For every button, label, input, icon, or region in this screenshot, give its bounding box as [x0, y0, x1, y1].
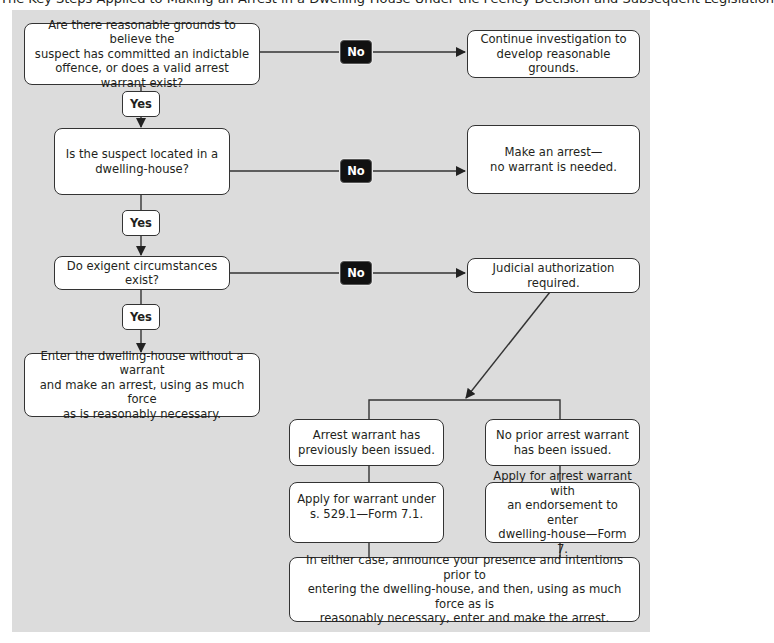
yes-label-1: Yes: [122, 91, 160, 117]
yes-label-3: Yes: [122, 304, 160, 330]
branch-warrant-previously-issued: Arrest warrant has previously been issue…: [289, 419, 444, 466]
apply-warrant-form-7-1: Apply for warrant under s. 529.1—Form 7.…: [289, 482, 444, 543]
no-label-2: No: [340, 159, 372, 183]
question-dwelling-house: Is the suspect located in a dwelling-hou…: [54, 128, 230, 195]
question-exigent-circumstances: Do exigent circumstances exist?: [54, 256, 230, 290]
outcome-continue-investigation: Continue investigation to develop reason…: [467, 30, 640, 78]
no-label-1: No: [340, 40, 372, 64]
outcome-enter-without-warrant: Enter the dwelling-house without a warra…: [24, 353, 260, 417]
question-reasonable-grounds: Are there reasonable grounds to believe …: [24, 23, 260, 85]
yes-label-2: Yes: [122, 210, 160, 236]
outcome-make-arrest-no-warrant: Make an arrest— no warrant is needed.: [467, 125, 640, 194]
branch-no-prior-warrant: No prior arrest warrant has been issued.: [485, 419, 640, 466]
outcome-judicial-authorization: Judicial authorization required.: [467, 258, 640, 293]
final-announce-and-arrest: In either case, announce your presence a…: [289, 557, 640, 622]
apply-warrant-form-7: Apply for arrest warrant with an endorse…: [485, 482, 640, 543]
no-label-3: No: [340, 261, 372, 285]
